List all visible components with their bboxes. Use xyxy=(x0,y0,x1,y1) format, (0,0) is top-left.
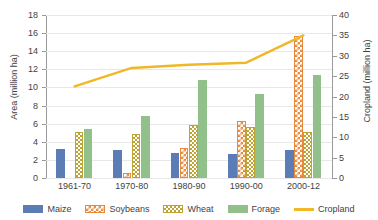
y-axis-right-tick-label: 10 xyxy=(339,133,361,142)
bar-soybeans[interactable] xyxy=(123,173,132,178)
y-axis-right-tick-mark xyxy=(333,35,337,36)
y-axis-right-tick-mark xyxy=(333,56,337,57)
bar-wheat[interactable] xyxy=(246,127,255,178)
y-axis-left-tick-label: 16 xyxy=(18,29,38,38)
y-axis-right-tick-mark xyxy=(333,178,337,179)
legend-label: Cropland xyxy=(318,204,355,214)
bar-soybeans[interactable] xyxy=(237,121,246,178)
y-axis-right-tick-label: 25 xyxy=(339,72,361,81)
y-axis-right-tick-label: 35 xyxy=(339,31,361,40)
y-axis-left-tick-label: 2 xyxy=(18,156,38,165)
bar-wheat[interactable] xyxy=(303,132,312,178)
bar-group xyxy=(218,15,275,178)
y-axis-right-tick-label: 20 xyxy=(339,93,361,102)
bar-maize[interactable] xyxy=(285,150,294,178)
y-axis-left-tick-label: 4 xyxy=(18,138,38,147)
bar-wheat[interactable] xyxy=(75,132,84,178)
y-axis-right-tick-label: 5 xyxy=(339,154,361,163)
y-axis-left-tick-label: 14 xyxy=(18,47,38,56)
y-axis-right-tick-label: 40 xyxy=(339,11,361,20)
bar-forage[interactable] xyxy=(255,94,264,178)
x-axis-label: 1970-80 xyxy=(103,181,160,191)
bar-maize[interactable] xyxy=(228,154,237,178)
x-axis-label: 1980-90 xyxy=(160,181,217,191)
legend-swatch-icon xyxy=(85,205,105,213)
y-axis-right-tick-mark xyxy=(333,158,337,159)
legend-label: Maize xyxy=(47,204,71,214)
y-axis-left-tick-label: 8 xyxy=(18,102,38,111)
legend-swatch-icon xyxy=(163,205,183,213)
bar-maize[interactable] xyxy=(56,149,65,178)
legend-item-cropland[interactable]: Cropland xyxy=(294,204,355,214)
legend-swatch-icon xyxy=(294,208,314,211)
bar-forage[interactable] xyxy=(313,75,322,178)
bar-forage[interactable] xyxy=(141,116,150,178)
bar-soybeans[interactable] xyxy=(180,148,189,178)
y-axis-left-tick-label: 6 xyxy=(18,120,38,129)
y-axis-left-tick-label: 12 xyxy=(18,65,38,74)
legend-item-soybeans[interactable]: Soybeans xyxy=(85,204,149,214)
bar-wheat[interactable] xyxy=(189,125,198,178)
bar-group xyxy=(103,15,160,178)
bar-group xyxy=(46,15,103,178)
legend-swatch-icon xyxy=(228,205,248,213)
bar-forage[interactable] xyxy=(198,80,207,178)
y-axis-right-title: Cropland (million ha) xyxy=(362,26,372,136)
chart-container: Area (million ha) Cropland (million ha) … xyxy=(0,0,378,220)
y-axis-right-tick-label: 15 xyxy=(339,113,361,122)
bar-soybeans[interactable] xyxy=(294,36,303,178)
y-axis-right-tick-label: 30 xyxy=(339,52,361,61)
bar-maize[interactable] xyxy=(171,153,180,178)
legend-swatch-icon xyxy=(23,205,43,213)
legend-item-maize[interactable]: Maize xyxy=(23,204,71,214)
y-axis-right-tick-mark xyxy=(333,15,337,16)
bar-group xyxy=(275,15,332,178)
y-axis-left-tick-label: 18 xyxy=(18,11,38,20)
bar-maize[interactable] xyxy=(113,150,122,178)
legend-item-wheat[interactable]: Wheat xyxy=(163,204,213,214)
y-axis-left-tick-label: 0 xyxy=(18,174,38,183)
plot-area xyxy=(46,15,332,178)
gridline xyxy=(46,178,332,179)
legend-label: Forage xyxy=(252,204,281,214)
y-axis-left-tick-label: 10 xyxy=(18,83,38,92)
bar-group xyxy=(160,15,217,178)
legend-label: Soybeans xyxy=(109,204,149,214)
bar-wheat[interactable] xyxy=(132,134,141,178)
y-axis-right-tick-label: 0 xyxy=(339,174,361,183)
legend-label: Wheat xyxy=(187,204,213,214)
y-axis-right-tick-mark xyxy=(333,97,337,98)
y-axis-right-tick-mark xyxy=(333,137,337,138)
y-axis-right-tick-mark xyxy=(333,76,337,77)
y-axis-right-tick-mark xyxy=(333,117,337,118)
legend-item-forage[interactable]: Forage xyxy=(228,204,281,214)
bar-forage[interactable] xyxy=(84,129,93,178)
chart-legend: MaizeSoybeansWheatForageCropland xyxy=(0,201,378,217)
x-axis-label: 2000-12 xyxy=(275,181,332,191)
x-axis-label: 1990-00 xyxy=(218,181,275,191)
x-axis-label: 1961-70 xyxy=(46,181,103,191)
